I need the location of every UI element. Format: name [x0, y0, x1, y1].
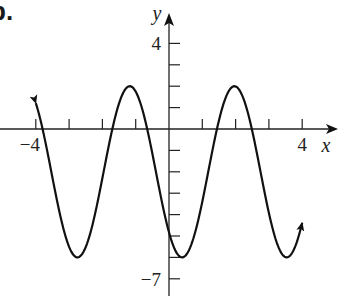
graph-figure: b. −444−7xy	[0, 0, 344, 296]
y-ticks	[169, 43, 180, 278]
svg-text:y: y	[151, 2, 162, 25]
svg-text:−7: −7	[141, 269, 161, 290]
svg-text:4: 4	[297, 134, 307, 155]
svg-text:x: x	[321, 134, 331, 156]
svg-text:4: 4	[152, 33, 162, 54]
svg-text:−4: −4	[20, 134, 41, 155]
axis-labels: −444−7xy	[20, 2, 331, 290]
sinusoid-plot: −444−7xy	[0, 0, 344, 296]
